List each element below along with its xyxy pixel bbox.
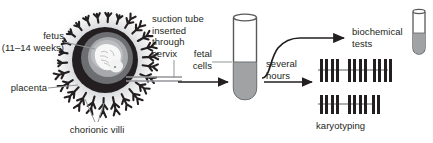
label-fetus: fetus bbox=[6, 30, 64, 42]
label-chorionic-villi: chorionic villi bbox=[51, 124, 143, 136]
label-fetus-age: (11–14 weeks) bbox=[0, 42, 64, 54]
label-fetal-cells: fetal cells bbox=[178, 48, 212, 71]
label-biochemical-tests: biochemical tests bbox=[352, 26, 416, 49]
label-placenta: placenta bbox=[0, 82, 47, 94]
cvs-diagram: fetus (11–14 weeks) placenta chorionic v… bbox=[0, 0, 433, 143]
fetal-cell-collection-tube bbox=[234, 14, 257, 99]
karyotype-row-1 bbox=[318, 59, 392, 82]
karyotype-row-2 bbox=[318, 95, 380, 114]
label-several-hours: several hours bbox=[266, 58, 316, 81]
label-karyotyping: karyotyping bbox=[316, 120, 396, 132]
